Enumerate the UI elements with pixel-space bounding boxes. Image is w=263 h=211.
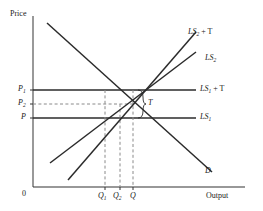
- output-tick-q-base: Q: [130, 191, 136, 200]
- price-tick-p1: P1: [18, 85, 26, 93]
- output-tick-q1-sub: 1: [104, 195, 107, 201]
- output-tick-q1-base: Q: [98, 191, 104, 200]
- y-axis-title: Price: [10, 10, 26, 18]
- output-tick-q: Q: [130, 192, 136, 200]
- price-tick-p: P: [21, 113, 26, 121]
- curve-label-ls2: LS2: [205, 54, 216, 62]
- curve-label-ls2-sub: 2: [213, 57, 216, 63]
- curve-label-ls2-plus-t-sub: 2: [196, 31, 199, 37]
- price-tick-p2: P2: [18, 99, 26, 107]
- supply-curve-ls2-plus-t: [68, 32, 196, 180]
- price-tick-p1-sub: 1: [23, 88, 26, 94]
- curve-label-ls1-sub: 1: [208, 116, 211, 122]
- curve-label-ls1-plus-t: LS1 + T: [200, 85, 224, 93]
- x-axis-title: Output: [206, 192, 228, 200]
- output-tick-q1: Q1: [98, 192, 107, 200]
- curve-label-ls1-plus-t-suffix: + T: [211, 84, 224, 93]
- output-tick-q2: Q2: [113, 192, 122, 200]
- curve-label-ls1: LS1: [200, 113, 211, 121]
- demand-curve: [47, 23, 212, 172]
- tax-bracket-label: T: [148, 99, 152, 107]
- curve-label-ls2-plus-t: LS2 + T: [188, 28, 212, 36]
- supply-demand-figure: Price Output 0 P1 P2 P Q1 Q2 Q LS2 + T L…: [0, 0, 263, 211]
- origin-label: 0: [22, 190, 26, 198]
- output-tick-q2-base: Q: [113, 191, 119, 200]
- price-tick-p-base: P: [21, 112, 26, 121]
- plot-canvas: [0, 0, 263, 211]
- curve-label-ls1-plus-t-sub: 1: [208, 88, 211, 94]
- curve-label-ls2-plus-t-suffix: + T: [199, 27, 212, 36]
- price-tick-p2-sub: 2: [23, 102, 26, 108]
- supply-curve-ls2: [50, 52, 196, 163]
- output-tick-q2-sub: 2: [119, 195, 122, 201]
- curve-label-demand: D: [205, 167, 211, 175]
